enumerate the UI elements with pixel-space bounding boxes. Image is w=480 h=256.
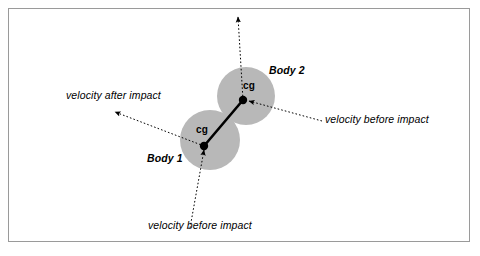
body-2-cg-label: cg — [243, 80, 255, 91]
velocity-before-impact-bottom-label: velocity before impact — [148, 219, 252, 231]
body-2-circle — [217, 67, 275, 125]
diagram-canvas — [0, 0, 480, 256]
body-1-cg-label: cg — [196, 124, 208, 135]
body-2-cg-dot — [239, 96, 247, 104]
body-1-cg-dot — [200, 142, 208, 150]
body-1-label: Body 1 — [147, 152, 183, 164]
velocity-after-impact-label: velocity after impact — [66, 89, 161, 101]
velocity-before-impact-right-label: velocity before impact — [325, 113, 429, 125]
body-2-label: Body 2 — [269, 64, 305, 76]
diagram-page: velocity after impact velocity before im… — [0, 0, 480, 256]
